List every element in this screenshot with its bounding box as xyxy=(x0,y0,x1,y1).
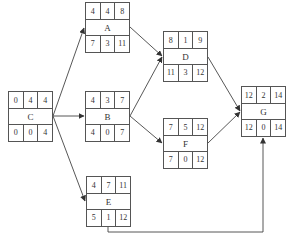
node-c-bottom-row: 0 0 4 xyxy=(9,125,52,141)
node-d-label: D xyxy=(164,48,207,64)
node-e-slack: 1 xyxy=(101,210,116,226)
node-f-bottom-row: 7 0 12 xyxy=(164,152,207,168)
node-b-top-row: 4 3 7 xyxy=(86,92,129,108)
node-e-top-row: 4 7 11 xyxy=(87,177,130,193)
node-a: 4 4 8 A 7 3 11 xyxy=(85,2,130,53)
node-d-slack: 3 xyxy=(178,65,193,81)
node-g-label: G xyxy=(242,103,285,119)
node-b-late-start: 4 xyxy=(86,125,100,141)
node-d-top-row: 8 1 9 xyxy=(164,32,207,48)
node-c-early-finish: 4 xyxy=(37,92,52,108)
node-f-top-row: 7 5 12 xyxy=(164,119,207,135)
edge-c-a xyxy=(53,28,84,116)
node-d: 8 1 9 D 11 3 12 xyxy=(163,31,208,82)
node-d-early-finish: 9 xyxy=(192,32,207,48)
node-a-late-finish: 11 xyxy=(114,36,129,52)
node-b-late-finish: 7 xyxy=(114,125,129,141)
node-c-early-start: 0 xyxy=(9,92,23,108)
node-g-bottom-row: 12 0 14 xyxy=(242,120,285,136)
node-c-label: C xyxy=(9,108,52,124)
node-d-bottom-row: 11 3 12 xyxy=(164,65,207,81)
node-d-late-start: 11 xyxy=(164,65,178,81)
node-b-bottom-row: 4 0 7 xyxy=(86,125,129,141)
edge-a-d xyxy=(130,27,162,56)
node-c-slack: 0 xyxy=(23,125,38,141)
node-e-late-start: 5 xyxy=(87,210,101,226)
node-c-late-finish: 4 xyxy=(37,125,52,141)
node-f-late-finish: 12 xyxy=(192,152,207,168)
node-c-late-start: 0 xyxy=(9,125,23,141)
edge-b-d xyxy=(130,57,162,116)
node-a-late-start: 7 xyxy=(86,36,100,52)
node-e-label: E xyxy=(87,193,130,209)
node-e: 4 7 11 E 5 1 12 xyxy=(86,176,131,227)
edge-b-f xyxy=(130,116,162,143)
node-g-late-start: 12 xyxy=(242,120,256,136)
node-a-early-start: 4 xyxy=(86,3,100,19)
node-b-early-finish: 7 xyxy=(114,92,129,108)
node-g-early-start: 12 xyxy=(242,87,256,103)
edge-d-g xyxy=(208,57,240,111)
node-e-early-finish: 11 xyxy=(115,177,130,193)
node-b-slack: 0 xyxy=(100,125,115,141)
node-b-early-start: 4 xyxy=(86,92,100,108)
node-a-label: A xyxy=(86,19,129,35)
node-g-late-finish: 14 xyxy=(270,120,285,136)
node-e-bottom-row: 5 1 12 xyxy=(87,210,130,226)
node-g-slack: 0 xyxy=(256,120,271,136)
node-g-duration: 2 xyxy=(256,87,271,103)
node-b-label: B xyxy=(86,108,129,124)
node-f-late-start: 7 xyxy=(164,152,178,168)
node-c: 0 4 4 C 0 0 4 xyxy=(8,91,53,142)
node-d-late-finish: 12 xyxy=(192,65,207,81)
node-e-late-finish: 12 xyxy=(115,210,130,226)
node-a-top-row: 4 4 8 xyxy=(86,3,129,19)
node-a-early-finish: 8 xyxy=(114,3,129,19)
node-f-label: F xyxy=(164,135,207,151)
edge-f-g xyxy=(208,112,240,143)
edge-c-e xyxy=(53,116,85,201)
node-a-slack: 3 xyxy=(100,36,115,52)
node-d-early-start: 8 xyxy=(164,32,178,48)
node-c-top-row: 0 4 4 xyxy=(9,92,52,108)
node-b-duration: 3 xyxy=(100,92,115,108)
node-e-duration: 7 xyxy=(101,177,116,193)
node-g-early-finish: 14 xyxy=(270,87,285,103)
node-a-bottom-row: 7 3 11 xyxy=(86,36,129,52)
node-b: 4 3 7 B 4 0 7 xyxy=(85,91,130,142)
node-c-duration: 4 xyxy=(23,92,38,108)
node-f-slack: 0 xyxy=(178,152,193,168)
node-a-duration: 4 xyxy=(100,3,115,19)
node-g-top-row: 12 2 14 xyxy=(242,87,285,103)
node-f: 7 5 12 F 7 0 12 xyxy=(163,118,208,169)
node-f-early-finish: 12 xyxy=(192,119,207,135)
node-f-duration: 5 xyxy=(178,119,193,135)
node-e-early-start: 4 xyxy=(87,177,101,193)
node-f-early-start: 7 xyxy=(164,119,178,135)
node-g: 12 2 14 G 12 0 14 xyxy=(241,86,286,137)
node-d-duration: 1 xyxy=(178,32,193,48)
